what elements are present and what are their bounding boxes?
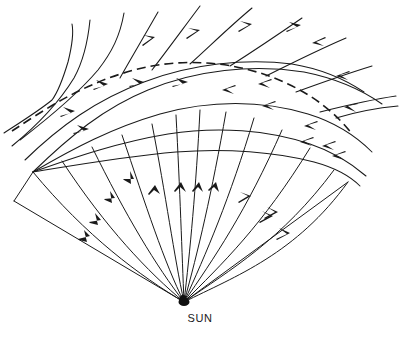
sun-label: SUN [0, 312, 400, 324]
radial-ray [184, 118, 254, 302]
streamline [4, 24, 73, 133]
arrow-outward [186, 28, 200, 39]
radial-ray [184, 130, 282, 302]
arrow-inward [208, 182, 219, 192]
streamline [296, 66, 372, 92]
shock-front-dashed-arc [12, 62, 352, 134]
diagram-canvas [0, 0, 400, 339]
streamline [33, 130, 366, 176]
arrow-outward [89, 213, 101, 225]
arrow-outward [238, 21, 252, 32]
radial-ray [176, 115, 184, 302]
radial-ray [184, 170, 334, 302]
radial-ray [184, 148, 310, 302]
arrow-inward [332, 151, 346, 160]
streamline [230, 18, 302, 66]
streamline [266, 38, 346, 76]
streamline [20, 13, 124, 140]
arrow-inward [322, 141, 336, 150]
solar-wind-diagram: SUN [0, 0, 400, 339]
streamlines [4, 6, 398, 186]
streamline-arrowheads [60, 21, 358, 160]
arrow-inward [222, 85, 236, 94]
arrow-inward [258, 79, 272, 88]
radial-rays [33, 110, 348, 302]
sun-blob-core [179, 295, 187, 305]
streamline [33, 104, 372, 173]
streamline [190, 8, 252, 64]
arrow-outward [104, 191, 115, 203]
arrow-outward [78, 230, 90, 242]
arrow-outward [123, 171, 134, 184]
arrow-inward [192, 182, 203, 192]
arrow-inward [148, 185, 160, 195]
arrow-outward [60, 107, 75, 117]
arrow-inward [304, 121, 318, 130]
streamline [336, 106, 398, 118]
streamline [12, 20, 90, 146]
arrow-outward [129, 78, 144, 87]
radial-ray [122, 135, 184, 302]
arrow-inward [312, 37, 326, 46]
streamline [152, 6, 200, 70]
arrow-outward [172, 78, 188, 87]
radial-ray [152, 124, 184, 302]
radial-ray [62, 161, 184, 302]
radial-ray [184, 112, 226, 302]
